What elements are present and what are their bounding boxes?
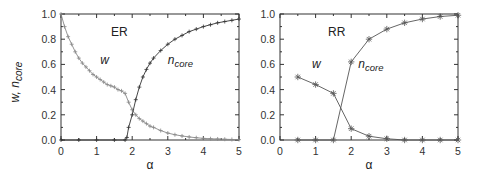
x-tick-label: 1 bbox=[313, 145, 319, 157]
y-tick-label: 0.4 bbox=[41, 84, 56, 96]
series-annotation: w bbox=[100, 53, 110, 67]
plot-frame bbox=[280, 14, 458, 140]
data-point-marker bbox=[384, 136, 390, 142]
data-point-marker bbox=[66, 35, 70, 39]
data-point-marker bbox=[223, 137, 227, 141]
series-annotation: w bbox=[312, 57, 322, 71]
series-line-n-core bbox=[61, 19, 239, 140]
data-point-marker bbox=[230, 137, 234, 141]
y-axis-label: w, ncore bbox=[8, 61, 24, 102]
data-point-marker bbox=[419, 16, 425, 22]
data-point-marker bbox=[312, 81, 318, 87]
series-line-n-core bbox=[298, 15, 458, 140]
y-tick-label: 0.6 bbox=[41, 58, 56, 70]
x-tick-label: 2 bbox=[348, 145, 354, 157]
data-point-marker bbox=[77, 138, 81, 142]
data-point-marker bbox=[295, 74, 301, 80]
data-point-marker bbox=[137, 85, 141, 89]
data-point-marker bbox=[63, 25, 67, 29]
y-tick-label: 0.0 bbox=[41, 134, 56, 146]
data-point-marker bbox=[141, 75, 145, 79]
chart-figure: 0123450.00.20.40.60.81.0αERwncore0123450… bbox=[0, 0, 478, 177]
x-axis-label: α bbox=[147, 158, 154, 172]
data-point-marker bbox=[144, 67, 148, 71]
data-point-marker bbox=[187, 30, 191, 34]
data-point-marker bbox=[366, 133, 372, 139]
data-point-marker bbox=[216, 21, 220, 25]
data-point-marker bbox=[95, 138, 99, 142]
panel-label: ER bbox=[111, 25, 128, 39]
data-point-marker bbox=[73, 50, 77, 54]
data-point-marker bbox=[166, 131, 170, 135]
x-tick-label: 0 bbox=[277, 145, 283, 157]
data-point-marker bbox=[384, 26, 390, 32]
x-tick-label: 3 bbox=[384, 145, 390, 157]
y-tick-label: 1.0 bbox=[260, 8, 275, 20]
y-tick-label: 1.0 bbox=[41, 8, 56, 20]
data-point-marker bbox=[201, 25, 205, 29]
data-point-marker bbox=[194, 27, 198, 31]
y-tick-label: 0.2 bbox=[260, 109, 275, 121]
data-point-marker bbox=[348, 59, 354, 65]
series-line-w bbox=[61, 14, 239, 140]
data-point-marker bbox=[419, 137, 425, 143]
data-point-marker bbox=[437, 13, 443, 19]
data-point-marker bbox=[237, 17, 241, 21]
data-point-marker bbox=[59, 138, 63, 142]
data-point-marker bbox=[223, 20, 227, 24]
data-point-marker bbox=[455, 12, 461, 18]
data-point-marker bbox=[348, 125, 354, 131]
data-point-marker bbox=[437, 137, 443, 143]
x-tick-label: 0 bbox=[58, 145, 64, 157]
data-point-marker bbox=[127, 125, 131, 129]
series-annotation: ncore bbox=[358, 57, 383, 73]
x-axis-label: α bbox=[366, 158, 373, 172]
data-point-marker bbox=[152, 125, 156, 129]
data-point-marker bbox=[70, 42, 74, 46]
data-point-marker bbox=[230, 18, 234, 22]
x-tick-label: 3 bbox=[165, 145, 171, 157]
data-point-marker bbox=[187, 135, 191, 139]
y-tick-label: 0.0 bbox=[260, 134, 275, 146]
data-point-marker bbox=[112, 138, 116, 142]
data-point-marker bbox=[134, 98, 138, 102]
y-tick-label: 0.2 bbox=[41, 109, 56, 121]
data-point-marker bbox=[401, 137, 407, 143]
data-point-marker bbox=[159, 129, 163, 133]
y-tick-label: 0.8 bbox=[260, 33, 275, 45]
x-tick-label: 4 bbox=[419, 145, 425, 157]
data-point-marker bbox=[209, 23, 213, 27]
x-tick-label: 2 bbox=[129, 145, 135, 157]
x-tick-label: 5 bbox=[455, 145, 461, 157]
y-tick-label: 0.4 bbox=[260, 84, 275, 96]
series-annotation: ncore bbox=[168, 53, 193, 69]
plot-frame bbox=[61, 14, 239, 140]
data-point-marker bbox=[194, 136, 198, 140]
data-point-marker bbox=[237, 138, 241, 142]
data-point-marker bbox=[455, 137, 461, 143]
data-point-marker bbox=[180, 134, 184, 138]
data-point-marker bbox=[401, 20, 407, 26]
y-tick-label: 0.6 bbox=[260, 58, 275, 70]
x-tick-label: 4 bbox=[200, 145, 206, 157]
chart-canvas: 0123450.00.20.40.60.81.0αERwncore0123450… bbox=[0, 0, 478, 177]
series-line-w bbox=[298, 77, 458, 140]
data-point-marker bbox=[59, 12, 63, 16]
data-point-marker bbox=[330, 137, 336, 143]
y-tick-label: 0.8 bbox=[41, 33, 56, 45]
x-tick-label: 5 bbox=[236, 145, 242, 157]
panel-label: RR bbox=[328, 25, 346, 39]
data-point-marker bbox=[330, 90, 336, 96]
panel-rr: 0123450.00.20.40.60.81.0αRRwncore bbox=[260, 8, 461, 172]
data-point-marker bbox=[109, 84, 113, 88]
data-point-marker bbox=[173, 133, 177, 137]
x-tick-label: 1 bbox=[94, 145, 100, 157]
data-point-marker bbox=[180, 33, 184, 37]
data-point-marker bbox=[127, 100, 131, 104]
data-point-marker bbox=[295, 137, 301, 143]
data-point-marker bbox=[312, 137, 318, 143]
data-point-marker bbox=[130, 113, 134, 117]
panel-er: 0123450.00.20.40.60.81.0αERwncore bbox=[41, 8, 242, 172]
